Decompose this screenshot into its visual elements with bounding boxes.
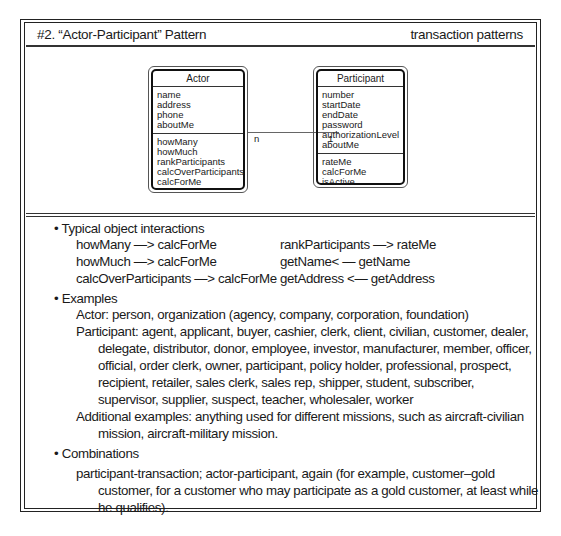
- pattern-header: #2. “Actor-Participant” Pattern transact…: [26, 24, 535, 47]
- combination-line: customer, for a customer who may partici…: [98, 483, 538, 500]
- example-line: Actor: person, organization (agency, com…: [76, 307, 469, 324]
- interaction-left: howMuch —> calcForMe: [76, 254, 216, 271]
- combination-line: he qualifies).: [98, 500, 169, 517]
- participant-class-box: Participant number startDate endDate pas…: [313, 66, 408, 188]
- actor-class-name: Actor: [153, 71, 243, 87]
- interaction-left: calcOverParticipants —> calcForMe: [76, 271, 277, 288]
- pattern-title: #2. “Actor-Participant” Pattern: [37, 27, 206, 42]
- example-line: delegate, distributor, donor, employee, …: [98, 341, 532, 358]
- participant-attributes: number startDate endDate password author…: [318, 87, 403, 154]
- example-line: supervisor, supplier, suspect, teacher, …: [98, 392, 413, 409]
- combinations-heading: • Combinations: [54, 446, 139, 463]
- method: isActive: [322, 177, 399, 187]
- examples-heading: • Examples: [54, 291, 117, 308]
- participant-methods: rateMe calcForMe isActive: [318, 154, 403, 190]
- example-line: official, order clerk, owner, participan…: [98, 358, 511, 375]
- combination-line: participant-transaction; actor-participa…: [76, 466, 495, 483]
- attribute: aboutMe: [322, 140, 399, 150]
- example-line: Participant: agent, applicant, buyer, ca…: [76, 324, 528, 341]
- participant-class-name: Participant: [318, 71, 403, 87]
- interaction-right: rankParticipants —> rateMe: [280, 237, 436, 254]
- pattern-category: transaction patterns: [410, 27, 523, 42]
- attribute: aboutMe: [157, 120, 239, 130]
- example-line: Additional examples: anything used for d…: [76, 409, 524, 426]
- actor-class-box: Actor name address phone aboutMe howMany…: [148, 66, 248, 193]
- class-diagram: Actor name address phone aboutMe howMany…: [26, 47, 535, 213]
- actor-attributes: name address phone aboutMe: [153, 87, 243, 134]
- example-line: mission, aircraft-military mission.: [98, 426, 278, 443]
- interaction-right: getName< — getName: [280, 254, 410, 271]
- actor-multiplicity: n: [254, 133, 259, 144]
- method: calcForMe: [157, 177, 239, 187]
- example-line: recipient, retailer, sales clerk, sales …: [98, 375, 474, 392]
- interactions-heading: • Typical object interactions: [54, 221, 204, 238]
- actor-methods: howMany howMuch rankParticipants calcOve…: [153, 134, 243, 190]
- interaction-right: getAddress <— getAddress: [280, 271, 435, 288]
- section-divider: [26, 213, 535, 217]
- interaction-left: howMany —> calcForMe: [76, 237, 216, 254]
